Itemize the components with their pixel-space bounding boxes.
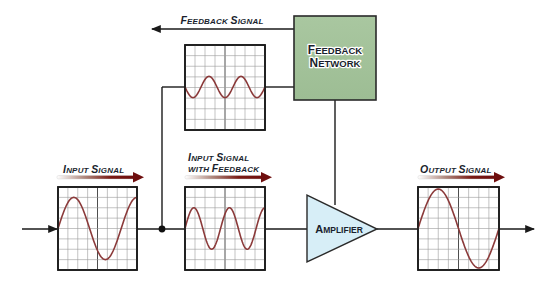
feedback-amplifier-diagram: FEEDBACK NETWORK AMPLIFIER FEEDBACK SIGN… bbox=[0, 0, 550, 287]
junction-dot bbox=[159, 226, 166, 233]
feedback-network-label-line2: NETWORK bbox=[310, 56, 361, 70]
amplifier-block: AMPLIFIER bbox=[307, 195, 377, 262]
output-signal-label: OUTPUT SIGNAL bbox=[420, 163, 492, 175]
feedback-network-block: FEEDBACK NETWORK bbox=[294, 16, 376, 100]
input-signal-scope bbox=[58, 187, 137, 270]
feedback-network-label-line1: FEEDBACK bbox=[308, 43, 362, 57]
input-signal-label: INPUT SIGNAL bbox=[63, 163, 124, 175]
amplifier-label: AMPLIFIER bbox=[315, 223, 363, 235]
feedback-signal-label: FEEDBACK SIGNAL bbox=[180, 14, 263, 26]
output-signal-scope bbox=[418, 187, 499, 270]
input-with-feedback-label-line2: WITH FEEDBACK bbox=[188, 162, 260, 174]
input-with-feedback-label-line1: INPUT SIGNAL bbox=[188, 151, 249, 163]
input-with-feedback-scope bbox=[185, 187, 265, 270]
feedback-signal-scope bbox=[185, 45, 265, 130]
